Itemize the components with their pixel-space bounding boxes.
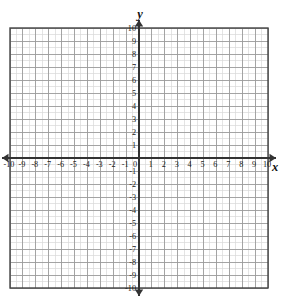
y-tick-label: -9 bbox=[129, 271, 136, 280]
y-tick-label: -5 bbox=[129, 219, 136, 228]
coordinate-plane-svg: -10-9-8-7-6-5-4-3-2-11234567891001098765… bbox=[0, 0, 289, 302]
x-tick-label: -2 bbox=[109, 160, 116, 169]
x-tick-label: 1 bbox=[149, 160, 153, 169]
x-tick-label: -7 bbox=[44, 160, 51, 169]
y-tick-label: 4 bbox=[132, 102, 136, 111]
y-tick-label: -4 bbox=[129, 206, 136, 215]
x-tick-label: 2 bbox=[162, 160, 166, 169]
x-tick-label: -1 bbox=[122, 160, 129, 169]
y-tick-label: -6 bbox=[129, 232, 136, 241]
y-tick-label: -7 bbox=[129, 245, 136, 254]
x-tick-label: 9 bbox=[252, 160, 256, 169]
x-tick-label: -6 bbox=[57, 160, 64, 169]
x-tick-label: -3 bbox=[96, 160, 103, 169]
y-tick-label: 9 bbox=[132, 37, 136, 46]
x-tick-label: 5 bbox=[200, 160, 204, 169]
y-tick-label: 7 bbox=[132, 63, 136, 72]
y-tick-label: 10 bbox=[128, 24, 136, 33]
y-tick-label: 3 bbox=[132, 115, 136, 124]
x-tick-label: 8 bbox=[239, 160, 243, 169]
y-tick-label: -1 bbox=[129, 167, 136, 176]
x-tick-label: 10 bbox=[263, 160, 271, 169]
y-tick-label: 8 bbox=[132, 50, 136, 59]
x-tick-label: 3 bbox=[175, 160, 179, 169]
y-tick-label: 5 bbox=[132, 89, 136, 98]
x-axis-label: x bbox=[271, 160, 278, 174]
x-tick-label: 4 bbox=[188, 160, 192, 169]
x-tick-label: -8 bbox=[31, 160, 38, 169]
y-tick-label: 2 bbox=[132, 128, 136, 137]
y-tick-label: -2 bbox=[129, 180, 136, 189]
x-tick-label: -4 bbox=[83, 160, 90, 169]
x-tick-label: -9 bbox=[18, 160, 25, 169]
y-tick-label: 6 bbox=[132, 76, 136, 85]
y-tick-label: -3 bbox=[129, 193, 136, 202]
figure-background bbox=[0, 0, 289, 302]
x-tick-label: 7 bbox=[226, 160, 230, 169]
coordinate-grid-figure: -10-9-8-7-6-5-4-3-2-11234567891001098765… bbox=[0, 0, 289, 302]
x-tick-label: 6 bbox=[213, 160, 217, 169]
y-tick-label: 1 bbox=[132, 141, 136, 150]
y-tick-label: -10 bbox=[125, 284, 136, 293]
x-tick-label: -10 bbox=[4, 160, 15, 169]
y-axis-label: y bbox=[135, 7, 143, 21]
y-tick-label: -8 bbox=[129, 258, 136, 267]
x-tick-label: -5 bbox=[70, 160, 77, 169]
